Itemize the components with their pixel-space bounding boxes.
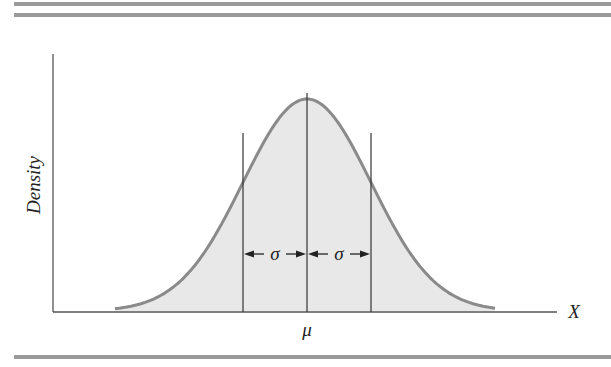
normal-distribution-diagram: σ σ μ X Density [0,0,611,367]
y-axis-label: Density [23,155,44,215]
density-area [115,99,495,311]
mean-label: μ [301,319,312,340]
sigma-left-label: σ [270,243,280,264]
sigma-right-label: σ [334,243,344,264]
x-axis-label: X [567,301,581,322]
